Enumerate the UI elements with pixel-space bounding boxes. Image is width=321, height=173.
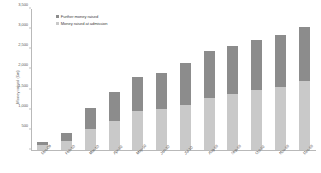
bar-segment-further-money-raised[interactable] (85, 108, 96, 130)
y-axis-tick-label: 2,500 (18, 42, 28, 47)
bar-group[interactable] (109, 92, 120, 150)
bar-segment-money-raised-at-admission[interactable] (251, 90, 262, 150)
y-axis-tick-mark (29, 88, 31, 89)
y-axis-tick-mark (29, 48, 31, 49)
bar-group[interactable] (227, 46, 238, 150)
bar-segment-further-money-raised[interactable] (275, 35, 286, 87)
y-axis-tick-mark (29, 108, 31, 109)
legend-swatch-icon (56, 22, 59, 25)
y-axis-tick-label: 500 (21, 122, 28, 127)
bar-segment-further-money-raised[interactable] (156, 73, 167, 109)
bar-segment-further-money-raised[interactable] (109, 92, 120, 121)
bar-group[interactable] (156, 73, 167, 150)
bar-segment-money-raised-at-admission[interactable] (275, 87, 286, 150)
bar-group[interactable] (275, 35, 286, 150)
y-axis-tick-mark (29, 8, 31, 9)
legend-item-label: Money raised at admission (61, 21, 108, 26)
y-axis-tick-label: 3,500 (18, 2, 28, 7)
bar-segment-money-raised-at-admission[interactable] (227, 94, 238, 150)
bar-group[interactable] (299, 27, 310, 150)
legend-swatch-icon (56, 15, 59, 18)
y-axis-tick-mark (29, 28, 31, 29)
bar-segment-further-money-raised[interactable] (204, 51, 215, 97)
y-axis-tick-label: 1,500 (18, 82, 28, 87)
y-axis-tick-label: 3,000 (18, 22, 28, 27)
bar-segment-money-raised-at-admission[interactable] (299, 81, 310, 150)
y-axis-tick-mark (29, 128, 31, 129)
bar-group[interactable] (204, 51, 215, 150)
bar-segment-further-money-raised[interactable] (299, 27, 310, 81)
bar-segment-further-money-raised[interactable] (251, 40, 262, 90)
chart-screenshot: Money raised (£m) 5001,0001,5002,0002,50… (0, 0, 321, 173)
bar-segment-money-raised-at-admission[interactable] (204, 98, 215, 150)
bar-group[interactable] (132, 77, 143, 150)
bar-group[interactable] (85, 108, 96, 150)
plot-area: 5001,0001,5002,0002,5003,0003,500 (31, 9, 316, 150)
legend-item[interactable]: Money raised at admission (56, 21, 107, 26)
y-axis-tick-mark (29, 149, 31, 150)
bar-segment-further-money-raised[interactable] (180, 63, 191, 105)
chart-legend: Further money raisedMoney raised at admi… (56, 14, 107, 28)
y-axis-tick-label: 1,000 (18, 102, 28, 107)
bar-segment-further-money-raised[interactable] (61, 133, 72, 140)
bar-segment-money-raised-at-admission[interactable] (180, 105, 191, 150)
x-axis-line (31, 150, 316, 151)
legend-item[interactable]: Further money raised (56, 14, 107, 19)
bar-segment-further-money-raised[interactable] (227, 46, 238, 94)
y-axis-tick-label: 2,000 (18, 62, 28, 67)
y-axis-tick-mark (29, 68, 31, 69)
bar-group[interactable] (251, 40, 262, 150)
bar-group[interactable] (180, 63, 191, 150)
legend-item-label: Further money raised (61, 14, 98, 19)
bar-segment-further-money-raised[interactable] (132, 77, 143, 111)
